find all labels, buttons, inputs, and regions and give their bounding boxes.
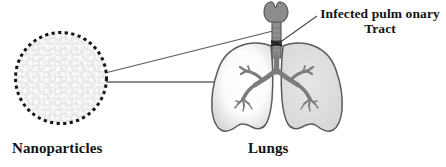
label-nanoparticles: Nanoparticles: [12, 140, 102, 157]
label-lungs: Lungs: [248, 140, 289, 157]
label-infected-pulmonary-tract: Infected pulm onary Tract: [317, 6, 443, 36]
label-infected-line2: Tract: [317, 21, 443, 36]
larynx: [264, 2, 288, 22]
label-infected-line1: Infected pulm onary: [317, 6, 443, 21]
trachea: [272, 22, 281, 58]
figure-container: Nanoparticles Lungs Infected pulm onary …: [0, 0, 446, 167]
lung-left-lobe: [212, 43, 273, 131]
infection-marker: [271, 41, 282, 47]
nanoparticle-sphere-group: [16, 33, 107, 124]
lung-right-lobe: [281, 43, 342, 131]
